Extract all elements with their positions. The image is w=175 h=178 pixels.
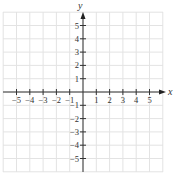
- x-tick-label: 2: [107, 95, 111, 105]
- y-tick-label: −4: [70, 140, 80, 150]
- y-axis-arrow-icon: [81, 12, 86, 19]
- y-tick-label: 5: [75, 21, 79, 31]
- x-axis-label: x: [167, 86, 173, 97]
- y-tick-label: −5: [70, 154, 79, 164]
- x-tick-label: −4: [25, 95, 35, 105]
- y-tick-label: −2: [70, 114, 79, 124]
- y-axis-label: y: [77, 0, 83, 11]
- y-tick-label: 2: [75, 60, 79, 70]
- x-tick-label: −3: [39, 95, 48, 105]
- x-tick-label: 3: [121, 95, 125, 105]
- y-tick-label: 1: [75, 74, 79, 84]
- x-tick-label: −2: [52, 95, 61, 105]
- y-tick-label: −3: [70, 127, 79, 137]
- y-tick-label: −1: [70, 100, 79, 110]
- x-tick-label: 1: [94, 95, 98, 105]
- x-tick-label: −5: [12, 95, 21, 105]
- y-tick-label: 3: [75, 47, 79, 57]
- x-tick-label: 5: [147, 95, 151, 105]
- coordinate-plane: x y −5−4−3−2−112345−5−4−3−2−112345: [0, 0, 175, 178]
- x-tick-label: 4: [134, 95, 139, 105]
